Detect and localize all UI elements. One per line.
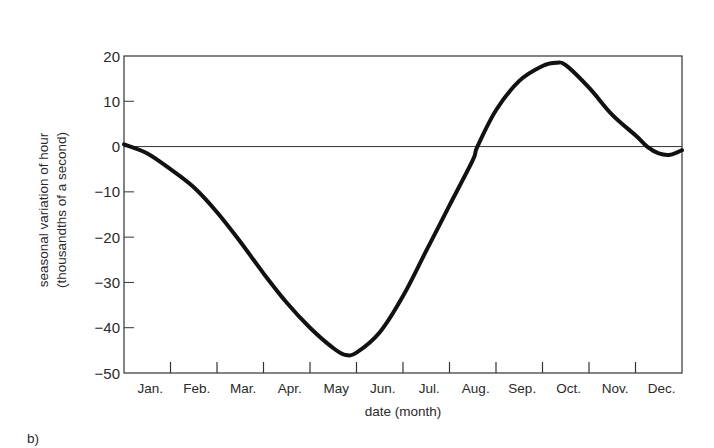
y-tick-label: −40 — [95, 319, 120, 336]
x-tick-label: Feb. — [183, 381, 210, 396]
x-tick-label: Dec. — [648, 381, 676, 396]
y-tick-label: −10 — [95, 183, 120, 200]
y-tick-label: 10 — [103, 93, 120, 110]
y-tick-label: −50 — [95, 365, 120, 382]
chart: seasonal variation of hour (thousandths … — [0, 0, 714, 448]
x-tick-label: May — [323, 381, 349, 396]
y-axis-ticks: 20100−10−20−30−40−50 — [95, 48, 134, 382]
x-tick-label: Sep. — [508, 381, 536, 396]
plot-frame — [124, 56, 682, 373]
y-tick-label: −20 — [95, 229, 120, 246]
x-tick-label: Jun. — [370, 381, 396, 396]
data-line-seasonal-variation — [124, 62, 682, 355]
y-tick-label: 0 — [112, 138, 120, 155]
y-axis-title-line-1: seasonal variation of hour — [36, 132, 51, 287]
y-tick-label: −30 — [95, 274, 120, 291]
x-tick-label: Nov. — [602, 381, 629, 396]
x-tick-label: Mar. — [230, 381, 256, 396]
x-tick-label: Jul. — [419, 381, 440, 396]
x-axis-title: date (month) — [365, 404, 442, 419]
x-tick-label: Oct. — [556, 381, 581, 396]
y-axis-title: seasonal variation of hour (thousandths … — [36, 132, 69, 288]
y-tick-label: 20 — [103, 48, 120, 65]
x-axis-ticks: Jan.Feb.Mar.Apr.MayJun.Jul.Aug.Sep.Oct.N… — [137, 362, 675, 396]
x-tick-label: Jan. — [137, 381, 163, 396]
y-axis-title-line-2: (thousandths of a second) — [54, 132, 69, 288]
x-tick-label: Apr. — [278, 381, 302, 396]
x-tick-label: Aug. — [462, 381, 490, 396]
panel-label: b) — [27, 431, 39, 446]
